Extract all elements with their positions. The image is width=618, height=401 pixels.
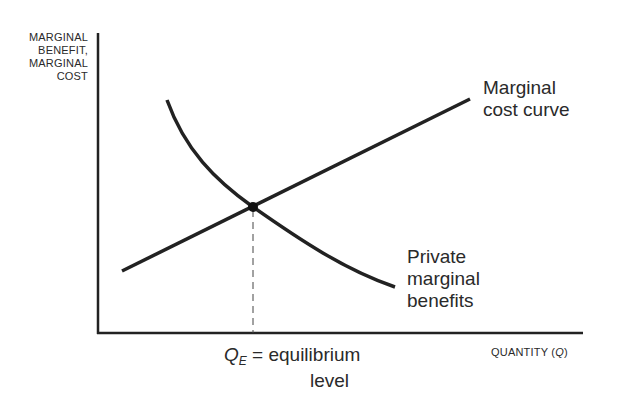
pb-label-line: Private: [407, 246, 480, 268]
qe-text-line2: level: [310, 369, 510, 392]
equilibrium-quantity-label: QE = equilibrium level: [224, 343, 424, 392]
y-axis-label-line: BENEFIT,: [29, 44, 88, 57]
pb-label-line: marginal: [407, 268, 480, 290]
y-axis-label-line: MARGINAL: [29, 31, 88, 44]
x-axis-symbol: Q: [555, 346, 564, 358]
qe-subscript: E: [239, 354, 247, 368]
x-axis-label-text: QUANTITY (: [491, 346, 555, 358]
pb-label-line: benefits: [407, 290, 480, 312]
marginal-cost-label: Marginal cost curve: [483, 77, 570, 121]
x-axis-label: QUANTITY (Q): [491, 346, 568, 358]
mc-label-line: Marginal: [483, 77, 570, 99]
private-benefit-label: Private marginal benefits: [407, 246, 480, 312]
qe-symbol: Q: [224, 344, 239, 365]
y-axis-label-line: COST: [29, 70, 88, 83]
x-axis-label-close: ): [564, 346, 568, 358]
qe-text: = equilibrium: [247, 344, 361, 365]
chart-canvas: [0, 0, 618, 401]
y-axis-label-line: MARGINAL: [29, 57, 88, 70]
equilibrium-point: [248, 202, 258, 212]
y-axis-label: MARGINAL BENEFIT, MARGINAL COST: [29, 31, 88, 83]
mc-label-line: cost curve: [483, 99, 570, 121]
